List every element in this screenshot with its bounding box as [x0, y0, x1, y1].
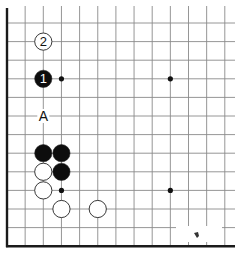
- move-number-label: 2: [40, 34, 47, 49]
- black-stone: [53, 163, 70, 180]
- stones: 21: [35, 33, 107, 218]
- black-stone: [53, 145, 70, 162]
- white-stone: [35, 182, 52, 199]
- black-stone: 1: [35, 70, 52, 87]
- point-marker-label: A: [39, 108, 49, 124]
- stone-disc: [35, 163, 52, 180]
- white-stone: [89, 200, 106, 217]
- move-number-label: 1: [40, 71, 47, 86]
- stone-disc: [35, 182, 52, 199]
- hoshi-point: [59, 76, 64, 81]
- white-stone: [35, 163, 52, 180]
- white-stone: 2: [35, 33, 52, 50]
- stone-disc: [53, 163, 70, 180]
- go-board: A 21: [0, 0, 242, 254]
- hoshi-point: [168, 188, 173, 193]
- white-stone: [53, 200, 70, 217]
- stone-disc: [89, 200, 106, 217]
- stone-disc: [35, 145, 52, 162]
- erased-watermark-patch: [176, 226, 222, 242]
- hoshi-point: [59, 188, 64, 193]
- stone-disc: [53, 200, 70, 217]
- stone-disc: [53, 145, 70, 162]
- board-markers: A: [37, 108, 49, 124]
- black-stone: [35, 145, 52, 162]
- hoshi-point: [168, 76, 173, 81]
